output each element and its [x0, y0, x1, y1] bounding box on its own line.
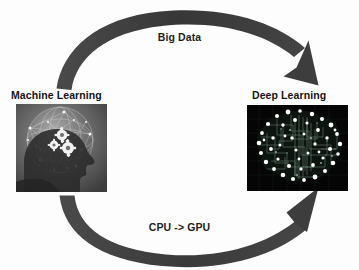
top-curved-arrow-icon	[57, 10, 319, 90]
bottom-arrow-label: CPU -> GPU	[0, 221, 359, 233]
head-network-gears-icon	[16, 104, 107, 192]
deep-learning-image	[247, 105, 348, 191]
deep-learning-title: Deep Learning	[252, 89, 326, 101]
machine-learning-title: Machine Learning	[11, 89, 102, 101]
top-arrow-label: Big Data	[0, 31, 359, 43]
diagram-canvas: Big Data CPU -> GPU Machine Learning	[0, 0, 359, 270]
machine-learning-image	[16, 104, 107, 192]
circuit-brain-icon	[247, 105, 348, 191]
